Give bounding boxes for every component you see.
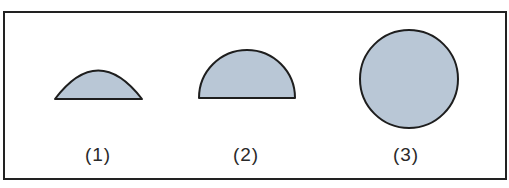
shape-3-circle — [360, 30, 458, 128]
label-shape-3: (3) — [376, 144, 436, 166]
label-shape-1: (1) — [68, 144, 128, 166]
shape-1-segment — [55, 71, 142, 100]
shape-2-semicircle — [199, 50, 295, 98]
label-shape-2: (2) — [216, 144, 276, 166]
